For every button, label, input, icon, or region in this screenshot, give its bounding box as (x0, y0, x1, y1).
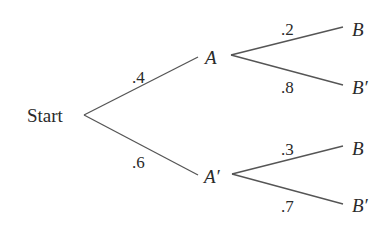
leaf-a-b-prime: B′ (352, 77, 369, 98)
leaf-a-prime-b: B (352, 138, 364, 159)
prob-label-a-prime: .6 (132, 153, 145, 172)
node-a: A (203, 47, 217, 68)
prob-label-a-prime-b: .3 (281, 140, 294, 159)
prob-label-a: .4 (132, 68, 145, 87)
prob-label-a-b-prime: .8 (281, 78, 294, 97)
prob-label-a-prime-b-prime: .7 (281, 197, 294, 216)
prob-label-a-b: .2 (281, 20, 294, 39)
leaf-a-prime-b-prime: B′ (352, 195, 369, 216)
node-start: Start (27, 105, 64, 126)
leaf-a-b: B (352, 19, 364, 40)
node-a-prime: A′ (202, 166, 221, 187)
probability-tree-diagram: Start .4 .6 A A′ .2 .8 .3 .7 B B′ B B′ (0, 0, 392, 230)
